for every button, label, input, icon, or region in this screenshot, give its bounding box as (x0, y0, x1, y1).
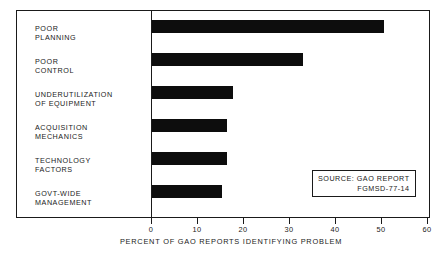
x-axis-tick-label-0: 0 (149, 225, 154, 234)
bar-underutilization (152, 86, 233, 99)
bar-poor-planning (152, 20, 384, 33)
bar-technology-factors (152, 152, 227, 165)
x-axis-tick-30 (289, 218, 290, 224)
source-note-box: SOURCE: GAO REPORT FGMSD-77-14 (312, 170, 416, 197)
x-axis-tick-label-20: 20 (238, 225, 247, 234)
category-label-acquisition-mechanics: ACQUISITION MECHANICS (35, 123, 88, 142)
x-axis-tick-label-50: 50 (376, 225, 385, 234)
x-axis-tick-0 (151, 218, 152, 224)
bar-govt-wide-management (152, 185, 222, 198)
x-axis-tick-label-40: 40 (330, 225, 339, 234)
source-note-line-2: FGMSD-77-14 (318, 184, 410, 194)
x-axis-tick-label-60: 60 (422, 225, 431, 234)
category-label-underutilization: UNDERUTILIZATION OF EQUIPMENT (35, 90, 113, 109)
bar-acquisition-mechanics (152, 119, 227, 132)
source-note-line-1: SOURCE: GAO REPORT (318, 174, 410, 184)
x-axis-tick-label-10: 10 (192, 225, 201, 234)
bar-chart-figure: POOR PLANNING POOR CONTROL UNDERUTILIZAT… (0, 0, 444, 259)
x-axis-tick-label-30: 30 (284, 225, 293, 234)
category-label-poor-control: POOR CONTROL (35, 57, 74, 76)
category-label-column: POOR PLANNING POOR CONTROL UNDERUTILIZAT… (18, 12, 149, 216)
x-axis-tick-40 (335, 218, 336, 224)
category-label-technology-factors: TECHNOLOGY FACTORS (35, 156, 91, 175)
x-axis-title: PERCENT OF GAO REPORTS IDENTIFYING PROBL… (0, 237, 444, 246)
x-axis-tick-50 (381, 218, 382, 224)
category-label-poor-planning: POOR PLANNING (35, 24, 76, 43)
x-axis-tick-60 (427, 218, 428, 224)
bar-poor-control (152, 53, 303, 66)
category-label-govt-wide-management: GOVT-WIDE MANAGEMENT (35, 189, 92, 208)
x-axis-title-text: PERCENT OF GAO REPORTS IDENTIFYING PROBL… (102, 237, 342, 246)
x-axis-tick-10 (197, 218, 198, 224)
x-axis-tick-20 (243, 218, 244, 224)
